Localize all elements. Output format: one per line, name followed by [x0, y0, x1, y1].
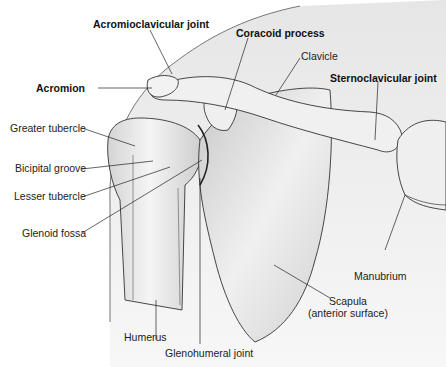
label-acromion: Acromion [36, 82, 85, 94]
label-bicipital-groove: Bicipital groove [15, 162, 86, 174]
label-scapula-line2: (anterior surface) [308, 307, 388, 319]
label-clavicle: Clavicle [301, 50, 338, 62]
label-acromioclavicular-joint: Acromioclavicular joint [93, 18, 209, 30]
label-lesser-tubercle: Lesser tubercle [14, 190, 86, 202]
label-glenoid-fossa: Glenoid fossa [22, 227, 86, 239]
label-coracoid-process: Coracoid process [236, 27, 325, 39]
label-scapula-line1: Scapula [308, 295, 388, 307]
label-scapula: Scapula (anterior surface) [308, 295, 388, 319]
label-sternoclavicular-joint: Sternoclavicular joint [330, 72, 437, 84]
label-glenohumeral-joint: Glenohumeral joint [165, 347, 253, 359]
label-manubrium: Manubrium [354, 270, 407, 282]
label-greater-tubercle: Greater tubercle [10, 122, 86, 134]
label-humerus: Humerus [124, 331, 167, 343]
